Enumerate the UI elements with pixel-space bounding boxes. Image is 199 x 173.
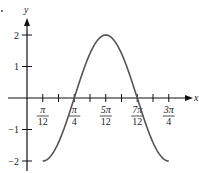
y-tick-label: −2 — [8, 156, 19, 167]
y-axis-label: y — [23, 4, 29, 15]
x-tick-label: π4 — [68, 104, 80, 127]
svg-text:12: 12 — [101, 116, 111, 127]
x-tick-labels: π12π45π127π123π4 — [37, 104, 175, 127]
x-tick-label: π12 — [37, 104, 49, 127]
svg-text:4: 4 — [72, 116, 77, 127]
y-tick-label: 1 — [14, 61, 19, 72]
y-tick-label: −1 — [8, 124, 19, 135]
y-axis-arrow-icon — [24, 18, 30, 26]
svg-text:3π: 3π — [163, 104, 175, 115]
x-axis-arrow-icon — [185, 95, 193, 101]
x-axis-label: x — [193, 92, 199, 103]
svg-text:4: 4 — [166, 116, 171, 127]
svg-text:5π: 5π — [101, 104, 112, 115]
svg-text:12: 12 — [38, 116, 48, 127]
x-tick-label: 5π12 — [100, 104, 112, 127]
sinusoid-chart: x y 21−1−2 π12π45π127π123π4 — [0, 0, 199, 173]
bullet-dot — [1, 10, 3, 12]
y-tick-label: 2 — [14, 30, 19, 41]
svg-text:π: π — [40, 104, 46, 115]
axes — [8, 22, 190, 171]
svg-text:12: 12 — [132, 116, 142, 127]
x-tick-label: 7π12 — [131, 104, 143, 127]
x-tick-label: 3π4 — [163, 104, 175, 127]
